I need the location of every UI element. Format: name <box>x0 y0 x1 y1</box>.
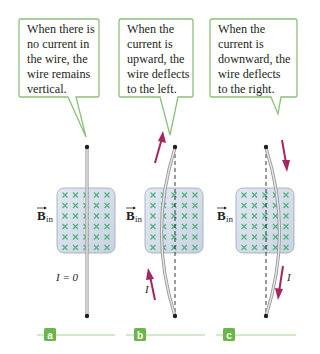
panel-labels: a b c <box>37 328 296 341</box>
callout-c-text: When thecurrent isdownward, thewire defl… <box>218 22 298 97</box>
magnetic-field-region <box>236 188 294 253</box>
svg-text:in: in <box>46 214 54 224</box>
wire-top-endpoint <box>85 145 89 149</box>
field-label-a: B in <box>37 207 54 225</box>
field-label-b: B in <box>126 207 143 225</box>
svg-text:B: B <box>217 208 226 223</box>
panel-c-label: c <box>226 330 232 341</box>
svg-text:B: B <box>126 208 135 223</box>
current-label-c: I <box>286 271 292 283</box>
svg-text:in: in <box>226 214 234 224</box>
panel-b-label: b <box>137 330 143 341</box>
panel-b-diagram <box>145 131 203 318</box>
magnetic-field-region <box>145 188 203 253</box>
current-label-b: I <box>144 283 150 295</box>
field-label-c: B in <box>217 207 234 225</box>
wire-bottom-endpoint <box>85 314 89 318</box>
callout-a-text: When there isno current inthe wire, thew… <box>27 22 99 97</box>
svg-text:B: B <box>37 208 46 223</box>
panel-c-diagram <box>236 140 294 318</box>
current-label-a: I = 0 <box>55 271 79 283</box>
svg-text:in: in <box>135 214 143 224</box>
panel-a-label: a <box>47 330 53 341</box>
callout-b-text: When thecurrent isupward, thewire deflec… <box>127 22 195 97</box>
panel-a-diagram <box>57 145 115 318</box>
